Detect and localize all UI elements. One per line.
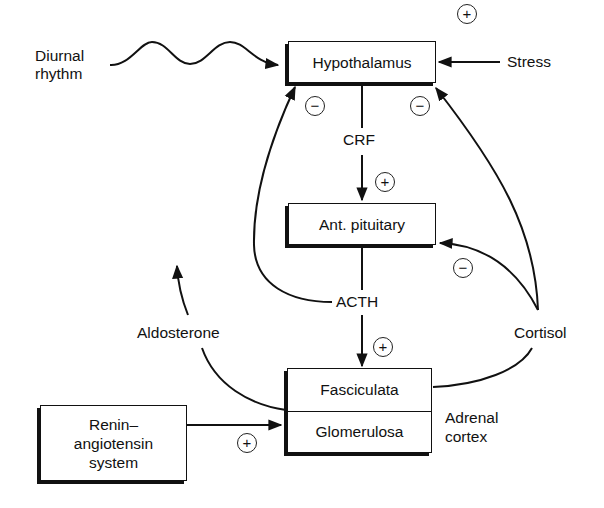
crf-plus-sign: + — [375, 172, 395, 192]
renin-angiotensin-box: Renin– angiotensin system — [40, 405, 187, 481]
cortisol-pituitary-arrow — [440, 243, 538, 310]
acth-plus-sign: + — [373, 337, 393, 357]
adrenal-cortex-box: Fasciculata Glomerulosa — [287, 368, 432, 453]
pituitary-box: Ant. pituitary — [288, 203, 436, 245]
cortisol-pituitary-minus-sign: − — [453, 258, 473, 278]
stress-plus-sign: + — [457, 4, 477, 24]
cortisol-label: Cortisol — [514, 324, 567, 342]
stress-label: Stress — [507, 53, 551, 71]
crf-label: CRF — [343, 131, 375, 149]
aldosterone-arrow — [177, 266, 188, 315]
diurnal-wave-arrow — [110, 42, 278, 65]
cortisol-hypothalamus-arrow — [436, 88, 538, 310]
adrenal-cortex-label: Adrenal cortex — [445, 408, 498, 446]
fasciculata-cortisol-line — [433, 348, 532, 387]
diurnal-rhythm-label: Diurnal rhythm — [35, 47, 84, 83]
acth-label: ACTH — [336, 293, 378, 311]
hypothalamus-box: Hypothalamus — [288, 41, 436, 83]
glomerulosa-zone: Glomerulosa — [288, 412, 431, 454]
aldosterone-line — [202, 348, 286, 410]
cortisol-hypothalamus-minus-sign: − — [410, 96, 430, 116]
renin-plus-sign: + — [237, 433, 257, 453]
acth-feedback-arrow — [254, 87, 332, 302]
acth-feedback-minus-sign: − — [305, 96, 325, 116]
fasciculata-zone: Fasciculata — [288, 369, 431, 412]
aldosterone-label: Aldosterone — [137, 324, 220, 342]
